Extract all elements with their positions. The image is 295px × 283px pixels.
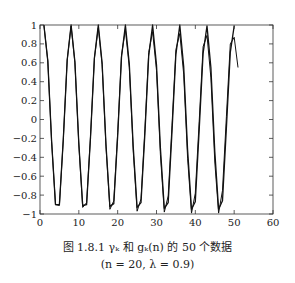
x-tick-label: 30 (150, 217, 163, 228)
y-tick-label: −1 (22, 209, 37, 220)
series-line-g (44, 25, 238, 213)
x-tick-label: 10 (72, 217, 85, 228)
y-tick-label: 0.8 (21, 38, 37, 49)
y-tick-label: −0.4 (13, 152, 37, 163)
y-tick-label: 0 (31, 114, 37, 125)
series-layer (44, 25, 238, 213)
y-tick-label: 0.4 (21, 76, 37, 87)
y-tick-label: −0.8 (13, 190, 37, 201)
line-chart: 0102030405060−1−0.8−0.6−0.4−0.200.20.40.… (0, 0, 295, 235)
x-tick-label: 0 (37, 217, 43, 228)
y-tick-label: −0.2 (13, 133, 37, 144)
series-line-gamma (44, 25, 234, 209)
y-tick-label: 0.6 (21, 57, 37, 68)
y-tick-label: 0.2 (21, 95, 37, 106)
figure-caption: 图 1.8.1 γₖ 和 gₖ(n) 的 50 个数据 (0, 238, 295, 254)
x-tick-label: 40 (189, 217, 202, 228)
y-tick-label: −0.6 (13, 171, 37, 182)
plot-frame (40, 25, 273, 214)
x-tick-label: 50 (228, 217, 241, 228)
figure-caption-params: (n = 20, λ = 0.9) (0, 258, 295, 271)
y-tick-label: 1 (31, 20, 37, 31)
x-tick-label: 20 (111, 217, 124, 228)
x-tick-label: 60 (267, 217, 280, 228)
